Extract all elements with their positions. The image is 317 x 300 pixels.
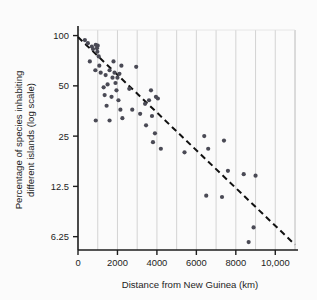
data-point (93, 68, 97, 72)
data-point (104, 73, 108, 77)
data-point (119, 64, 123, 68)
data-point (127, 87, 131, 91)
data-point (151, 140, 155, 144)
data-point (83, 38, 87, 42)
data-point (220, 195, 224, 199)
data-point (138, 112, 142, 116)
x-tick-label: 2000 (107, 257, 128, 268)
data-point (86, 41, 90, 45)
data-point (147, 98, 151, 102)
data-point (159, 147, 163, 151)
data-point (206, 147, 210, 151)
data-point (204, 194, 208, 198)
data-point (105, 82, 109, 86)
y-tick-label: 25 (59, 131, 69, 142)
data-point (109, 95, 113, 99)
x-axis-tick-labels: 0200040006000800010,000 (75, 257, 289, 268)
chart-panel: 100502512.56.25 0200040006000800010,000 … (0, 0, 317, 300)
data-point (94, 118, 98, 122)
y-tick-label: 100 (53, 30, 69, 41)
x-tick-label: 4000 (146, 257, 167, 268)
y-tick-label: 50 (59, 80, 69, 91)
x-axis-title: Distance from New Guinea (km) (122, 279, 258, 290)
figure-container: 100502512.56.25 0200040006000800010,000 … (0, 0, 317, 300)
y-axis-title-line1: Percentage of species inhabiting (13, 71, 24, 210)
x-tick-label: 6000 (186, 257, 207, 268)
data-point (112, 71, 116, 75)
data-point (130, 108, 134, 112)
data-point (118, 108, 122, 112)
plot-frame (78, 26, 298, 250)
data-point (115, 76, 119, 80)
data-point (144, 123, 148, 127)
data-point (113, 81, 117, 85)
data-point (134, 65, 138, 69)
data-point (226, 169, 230, 173)
x-tick-label: 0 (75, 257, 80, 268)
x-tick-label: 8000 (225, 257, 246, 268)
data-point (110, 76, 114, 80)
data-point (120, 116, 124, 120)
data-points-group (83, 38, 258, 244)
data-point (114, 88, 118, 92)
data-point (102, 85, 106, 89)
tick-marks-group (73, 36, 275, 255)
data-point (107, 118, 111, 122)
data-point (96, 44, 100, 48)
data-point (242, 172, 246, 176)
data-point (143, 102, 147, 106)
data-point (99, 71, 103, 75)
data-point (97, 54, 101, 58)
gridlines-group (78, 30, 295, 250)
data-point (222, 139, 226, 143)
data-point (107, 68, 111, 72)
data-point (88, 59, 92, 63)
data-point (111, 59, 115, 63)
data-point (97, 64, 101, 68)
data-point (149, 88, 153, 92)
data-point (150, 114, 154, 118)
data-point (117, 72, 121, 76)
data-point (253, 174, 257, 178)
data-point (182, 150, 186, 154)
data-point (116, 98, 120, 102)
x-tick-label: 10,000 (261, 257, 290, 268)
y-axis-title-line2: different islands (log scale) (25, 83, 36, 197)
data-point (156, 96, 160, 100)
data-point (153, 131, 157, 135)
data-point (103, 93, 107, 97)
data-point (105, 104, 109, 108)
y-tick-label: 12.5 (51, 181, 69, 192)
data-point (95, 50, 99, 54)
data-point (251, 225, 255, 229)
trendline-dashed (78, 37, 295, 245)
trendline (78, 37, 295, 245)
scatter-chart: 100502512.56.25 0200040006000800010,000 … (0, 0, 317, 300)
y-axis-tick-labels: 100502512.56.25 (51, 30, 69, 242)
data-point (202, 134, 206, 138)
data-point (91, 47, 95, 51)
data-point (247, 240, 251, 244)
y-tick-label: 6.25 (51, 231, 69, 242)
